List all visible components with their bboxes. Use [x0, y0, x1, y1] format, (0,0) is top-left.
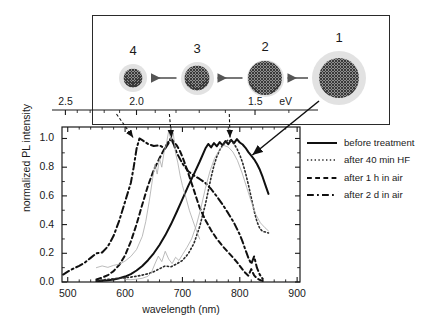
legend-swatch-dashdot — [307, 190, 337, 200]
x-tick-label-500: 500 — [44, 287, 92, 299]
y-tick-label-0-6: 0.6 — [10, 189, 54, 201]
legend-swatch-dotted — [307, 155, 337, 165]
legend-item-0[interactable]: before treatment — [307, 134, 414, 152]
curve-raw-noise-trace-a — [96, 131, 199, 268]
y-tick-label-0-2: 0.2 — [10, 246, 54, 258]
legend-swatch-solid — [307, 138, 337, 148]
annotation-arrow-2 — [229, 114, 230, 137]
y-tick-label-1-0: 1.0 — [10, 131, 54, 143]
legend-label-3: after 2 d in air — [344, 190, 403, 200]
y-tick-label-0-8: 0.8 — [10, 160, 54, 172]
legend-swatch-dashed — [307, 173, 337, 183]
legend-label-2: after 1 h in air — [344, 173, 403, 183]
y-tick-label-0-4: 0.4 — [10, 218, 54, 230]
x-tick-label-600: 600 — [101, 287, 149, 299]
x-axis-label: wavelength (nm) — [62, 303, 300, 315]
figure-root: 4321 normalized PL intensity wavelength … — [0, 0, 443, 330]
x-tick-label-800: 800 — [216, 287, 264, 299]
legend-label-0: before treatment — [344, 138, 414, 148]
ev-unit-label: eV — [262, 95, 310, 107]
legend-item-3[interactable]: after 2 d in air — [307, 187, 414, 205]
curve-raw-noise-trace-b — [125, 145, 268, 279]
annotation-arrow-4 — [116, 114, 133, 137]
y-tick-label-0-0: 0.0 — [10, 275, 54, 287]
x-tick-label-700: 700 — [158, 287, 206, 299]
legend: before treatmentafter 40 min HFafter 1 h… — [307, 134, 414, 204]
ev-tick-label-2-5: 2.5 — [41, 95, 89, 107]
legend-item-2[interactable]: after 1 h in air — [307, 169, 414, 187]
legend-item-1[interactable]: after 40 min HF — [307, 152, 414, 170]
legend-label-1: after 40 min HF — [344, 155, 410, 165]
x-tick-label-900: 900 — [273, 287, 321, 299]
y-axis-label: normalized PL intensity — [20, 83, 32, 233]
ev-tick-label-2-0: 2.0 — [113, 95, 161, 107]
